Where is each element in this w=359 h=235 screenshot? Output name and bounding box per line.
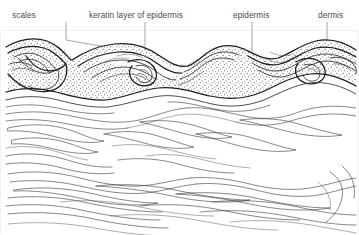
label-keratin-layer-of-epidermis: keratin layer of epidermis bbox=[89, 11, 183, 20]
label-dermis: dermis bbox=[318, 11, 343, 20]
label-epidermis: epidermis bbox=[233, 11, 269, 20]
label-scales: scales bbox=[12, 11, 36, 20]
dermis-region bbox=[6, 106, 356, 235]
drawing-plate bbox=[0, 30, 359, 235]
label-group: scales keratin layer of epidermis epider… bbox=[12, 11, 343, 20]
diagram-canvas: scales keratin layer of epidermis epider… bbox=[0, 0, 359, 235]
skin-cross-section-figure: scales keratin layer of epidermis epider… bbox=[0, 0, 359, 235]
